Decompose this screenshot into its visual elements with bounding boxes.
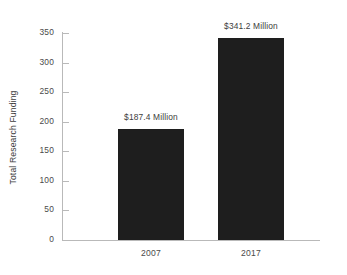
y-axis-tick-label: 200: [14, 116, 54, 126]
y-axis-tick-label: 300: [14, 57, 54, 67]
x-axis-category-label: 2017: [241, 248, 261, 258]
y-axis-tick-label: 150: [14, 145, 54, 155]
bar[interactable]: [118, 129, 184, 240]
bar-value-label: $341.2 Million: [224, 21, 278, 31]
bar-group: $341.2 Million: [218, 33, 284, 240]
y-axis-tick-label: 50: [14, 204, 54, 214]
bar-group: $187.4 Million: [118, 33, 184, 240]
bar-chart-figure: Total Research Funding 05010015020025030…: [0, 0, 347, 275]
y-axis-tick-label: 0: [14, 234, 54, 244]
y-axis-tick-mark: [62, 240, 69, 241]
x-axis-category-label: 2007: [141, 248, 161, 258]
bar-value-label: $187.4 Million: [124, 112, 178, 122]
bar[interactable]: [218, 38, 284, 240]
x-axis-line: [62, 240, 320, 241]
y-axis-tick-label: 350: [14, 27, 54, 37]
y-axis-tick-label: 100: [14, 175, 54, 185]
y-axis-tick-label: 250: [14, 86, 54, 96]
